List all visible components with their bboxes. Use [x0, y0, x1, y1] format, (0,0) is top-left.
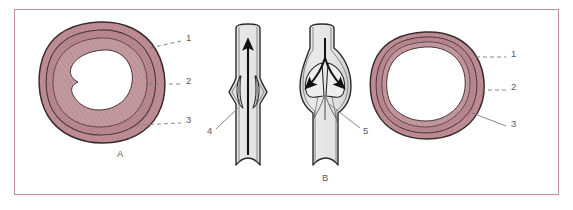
leader-line-3-right — [472, 113, 506, 126]
figure-root: 1 2 3 4 5 1 2 3 A B — [0, 0, 573, 210]
label-5: 5 — [363, 126, 368, 136]
vein-valve-closed — [300, 24, 351, 165]
caption-a: A — [117, 149, 123, 159]
label-2-right: 2 — [511, 82, 516, 92]
artery-lumen — [70, 50, 132, 110]
label-1-left: 1 — [186, 33, 191, 43]
caption-b: B — [322, 173, 328, 183]
label-2-left: 2 — [186, 76, 191, 86]
label-4: 4 — [207, 126, 212, 136]
vein-cross-section — [370, 32, 484, 139]
vein-lumen — [387, 47, 466, 121]
label-3-right: 3 — [511, 119, 516, 129]
label-1-right: 1 — [511, 49, 516, 59]
illustration-canvas — [0, 0, 573, 210]
leader-line-4 — [216, 108, 238, 129]
vein-valve-open — [229, 24, 267, 165]
label-3-left: 3 — [186, 115, 191, 125]
